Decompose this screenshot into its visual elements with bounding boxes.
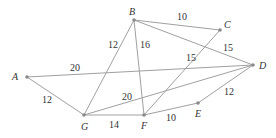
node-label-a: A (11, 71, 19, 82)
node-label-d: D (258, 60, 267, 71)
edge-weight-label: 15 (223, 42, 233, 53)
edges-group (27, 20, 253, 115)
node-label-e: E (194, 108, 201, 119)
edge-weight-label: 14 (109, 119, 119, 130)
edge-weight-label: 16 (140, 39, 150, 50)
node-label-f: F (140, 120, 148, 131)
edge-weight-label: 12 (108, 39, 118, 50)
node-a (25, 75, 29, 79)
edge-e-d (198, 65, 253, 103)
edge-weight-label: 20 (122, 91, 132, 102)
node-d (251, 63, 255, 67)
weight-labels-group: 2012101512161520141012 (42, 11, 234, 130)
edge-weight-label: 20 (70, 62, 80, 73)
node-label-c: C (224, 19, 231, 30)
node-label-g: G (81, 121, 88, 132)
node-e (196, 101, 200, 105)
edge-b-f (134, 20, 144, 115)
graph-diagram: 2012101512161520141012 ABCDEFG (0, 0, 276, 138)
node-b (132, 18, 136, 22)
edge-weight-label: 10 (177, 11, 187, 22)
edge-weight-label: 15 (186, 52, 196, 63)
edge-weight-label: 12 (224, 86, 234, 97)
edge-a-g (27, 77, 84, 115)
edge-weight-label: 12 (42, 94, 52, 105)
node-g (82, 113, 86, 117)
node-c (218, 28, 222, 32)
node-label-b: B (129, 6, 135, 17)
edge-c-f (144, 30, 220, 115)
edge-weight-label: 10 (166, 112, 176, 123)
node-f (142, 113, 146, 117)
